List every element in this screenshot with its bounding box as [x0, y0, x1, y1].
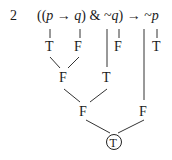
formula-var-p: p [45, 8, 53, 23]
value-neg-q: T [102, 70, 111, 85]
value-q2: F [114, 39, 122, 54]
value-root: T [110, 136, 118, 150]
value-p2: T [152, 39, 161, 54]
formula-main-arrow-neg: ) → ~ [118, 8, 152, 24]
truth-tree-diagram: 2 ((p → q) & ~q) → ~p T F F T F T F F [0, 0, 172, 160]
formula-var-q2: q [111, 8, 118, 23]
formula: ((p → q) & ~q) → ~p [37, 8, 159, 24]
edge-conj-to-root [86, 120, 110, 133]
edge-p1-to-impl [50, 57, 60, 68]
formula-arrow: → [53, 8, 74, 23]
formula-var-q: q [74, 8, 81, 23]
edge-negq-to-conj [90, 89, 107, 102]
diagram-svg: 2 ((p → q) & ~q) → ~p T F F T F T F F [0, 0, 172, 160]
value-impl-pq: F [59, 70, 67, 85]
value-p1: T [45, 39, 54, 54]
edge-q1-to-impl [68, 57, 79, 68]
edge-negp-to-root [118, 120, 144, 133]
edge-impl-to-conj [64, 89, 80, 102]
value-neg-p: F [139, 104, 147, 119]
formula-open-parens: (( [37, 8, 47, 24]
problem-number: 2 [10, 8, 17, 23]
value-q1: F [74, 39, 82, 54]
formula-and-neg: ) & ~ [81, 8, 112, 24]
value-conj: F [79, 104, 87, 119]
formula-var-p2: p [151, 8, 159, 23]
